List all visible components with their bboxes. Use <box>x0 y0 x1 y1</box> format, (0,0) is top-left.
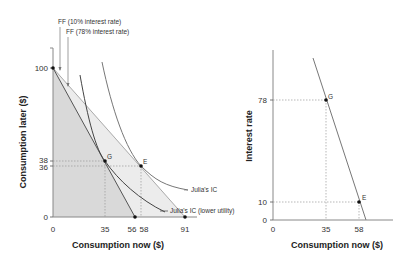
left-xtick-56: 56 <box>128 225 137 234</box>
point-56 <box>133 215 137 219</box>
right-y-axis-title: Interest rate <box>244 110 254 162</box>
left-x-axis-title: Consumption now ($) <box>72 240 164 250</box>
right-xtick-0: 0 <box>271 225 276 234</box>
ff-10pct-label: FF (10% interest rate) <box>58 18 121 26</box>
right-ytick-78: 78 <box>258 96 267 105</box>
point-100 <box>51 66 55 70</box>
point-e-right <box>357 200 361 204</box>
left-ytick-36: 36 <box>39 163 48 172</box>
borrowing-demand-line <box>313 58 366 220</box>
right-ytick-0: 0 <box>263 216 268 225</box>
left-xtick-35: 35 <box>101 225 110 234</box>
left-ytick-0: 0 <box>44 213 49 222</box>
point-91 <box>183 215 187 219</box>
right-x-axis-title: Consumption now ($) <box>291 240 383 250</box>
label-e-right: E <box>362 194 367 201</box>
left-xtick-91: 91 <box>181 225 190 234</box>
left-y-axis-title: Consumption later ($) <box>18 95 28 188</box>
label-e: E <box>143 158 148 165</box>
left-chart: 100 38 36 0 0 35 56 58 91 G E FF (10% in… <box>18 18 234 250</box>
left-ytick-100: 100 <box>35 64 49 73</box>
julia-ic-lower-label: Julia's IC (lower utility) <box>170 207 234 215</box>
right-ytick-10: 10 <box>258 198 267 207</box>
julia-ic-label: Julia's IC <box>191 186 217 193</box>
left-xtick-0: 0 <box>51 225 56 234</box>
right-xtick-35: 35 <box>322 225 331 234</box>
label-g-right: G <box>328 93 333 100</box>
left-xtick-58: 58 <box>140 225 149 234</box>
right-xtick-58: 58 <box>355 225 364 234</box>
ff-78pct-label: FF (78% interest rate) <box>66 28 129 36</box>
chart-canvas: 100 38 36 0 0 35 56 58 91 G E FF (10% in… <box>0 0 419 266</box>
label-g: G <box>107 153 112 160</box>
right-chart: 78 10 0 0 35 58 G E Consumption now ($) … <box>244 50 393 250</box>
